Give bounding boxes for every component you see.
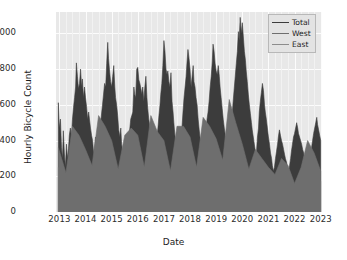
y-tick-label: 200: [0, 171, 16, 180]
y-axis-label: Hourly Bicycle Count: [23, 37, 33, 197]
legend-item-east: East: [272, 40, 311, 49]
chart-legend: TotalWestEast: [268, 14, 316, 53]
y-tick-label: 400: [0, 136, 16, 145]
chart-figure: 02004006008001000 2013201420152016201720…: [0, 0, 347, 260]
y-tick-label: 800: [0, 64, 16, 73]
legend-item-west: West: [272, 29, 311, 38]
y-tick-label: 1000: [0, 28, 16, 37]
legend-swatch-west: [272, 33, 289, 34]
y-tick-label: 0: [0, 207, 16, 216]
legend-label: Total: [292, 18, 310, 27]
legend-item-total: Total: [272, 18, 311, 27]
legend-label: East: [292, 40, 308, 49]
y-tick-label: 600: [0, 100, 16, 109]
legend-swatch-east: [272, 44, 289, 45]
x-tick-label: 2023: [301, 214, 341, 224]
x-axis-label: Date: [0, 237, 347, 247]
legend-swatch-total: [272, 22, 289, 23]
legend-label: West: [292, 29, 311, 38]
